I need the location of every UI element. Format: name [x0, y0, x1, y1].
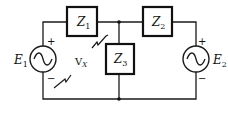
voltage-source-e1: + − E1 — [13, 36, 56, 84]
circuit-diagram: Z1 Z2 Z3 + − E1 + − E2 VX — [0, 0, 228, 114]
impedance-z3: Z3 — [106, 44, 134, 74]
e2-minus: − — [198, 73, 206, 84]
impedance-z2: Z2 — [143, 7, 172, 36]
e2-label: E2 — [212, 53, 227, 69]
vx-label: VX — [74, 56, 88, 69]
voltage-source-e2: + − E2 — [183, 36, 227, 84]
impedance-z1: Z1 — [67, 7, 97, 36]
e1-label: E1 — [13, 53, 28, 69]
vx-lower-zigzag-icon — [54, 75, 71, 88]
junction-node-bottom — [117, 97, 121, 101]
wire-right-top — [172, 22, 196, 46]
e1-minus: − — [47, 73, 55, 84]
e2-plus: + — [198, 36, 206, 47]
junction-node-top — [117, 20, 121, 24]
e1-plus: + — [47, 36, 55, 47]
vx-indicator: VX — [54, 35, 108, 88]
